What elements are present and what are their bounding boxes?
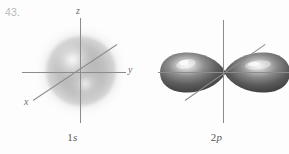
orbital-panel-1s: z y x 1s [0,0,145,154]
caption-subshell-letter: p [217,131,223,143]
axis-line-y [22,72,126,73]
orbital-panel-2p: 2p [144,0,289,154]
axis-label-y: y [128,64,132,75]
s-orbital-sphere [46,36,116,106]
orbital-figure: 43. z y x 1s [0,0,289,154]
caption-subshell-letter: s [73,131,78,143]
orbital-caption-1s: 1s [0,131,145,143]
axis-label-x: x [24,96,28,107]
axis-label-z: z [76,5,80,16]
orbital-caption-2p: 2p [144,131,289,143]
axis-line-z [80,18,81,123]
axis-line-z [223,20,224,123]
